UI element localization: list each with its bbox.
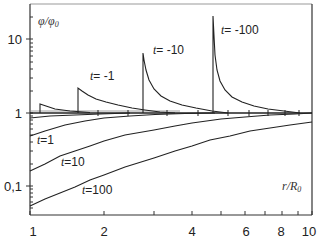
y-tick-label: 0,1	[4, 179, 22, 194]
x-tick-label: 10	[302, 224, 316, 239]
label-t-1: t=1	[37, 133, 54, 147]
x-axis-title: r/R0	[282, 179, 301, 194]
y-tick-label: 1	[15, 106, 22, 121]
x-tick-labels: 1 2 4 6 8 10	[29, 224, 316, 239]
series-t-minus-10	[143, 53, 228, 113]
x-tick-label: 2	[100, 224, 107, 239]
label-t-minus-1: t= -1	[90, 69, 115, 83]
x-tick-label: 6	[242, 224, 249, 239]
y-axis-title: φ/φ0	[38, 14, 59, 29]
label-t-100: t=100	[82, 183, 113, 197]
x-tick-label: 8	[277, 224, 284, 239]
x-tick-label: 1	[29, 224, 36, 239]
label-t-minus-100: t= -100	[221, 23, 259, 37]
series-t-minus-1	[78, 88, 175, 113]
x-tick-label: 4	[188, 224, 195, 239]
y-tick-labels: 0,1 1 10	[4, 32, 22, 194]
y-tick-label: 10	[8, 32, 22, 47]
series-t-minus-0-1	[40, 104, 90, 113]
label-t-minus-10: t= -10	[153, 43, 184, 57]
label-t-10: t=10	[61, 155, 85, 169]
series-t-1	[30, 113, 215, 136]
chart: 1 2 4 6 8 10 0,	[0, 0, 320, 240]
